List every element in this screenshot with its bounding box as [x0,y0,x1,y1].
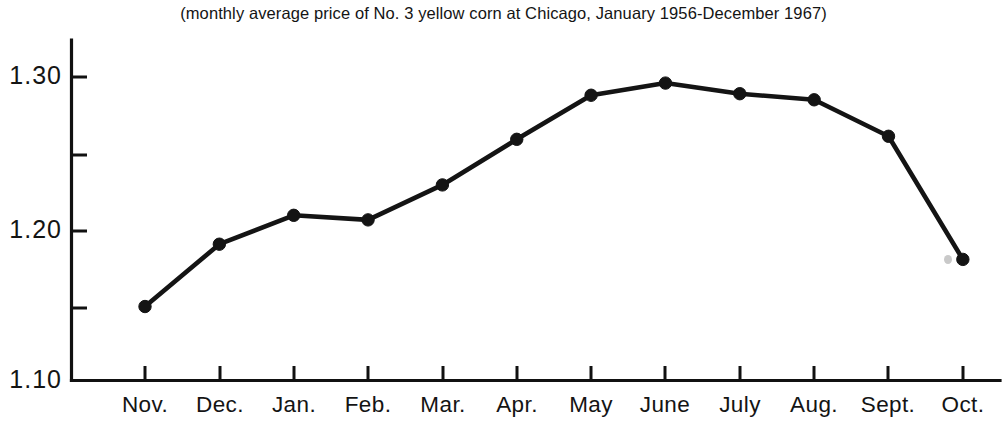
data-point [734,88,746,100]
x-axis-label-dec: Dec. [196,392,244,418]
x-axis-label-july: July [719,392,761,418]
chart-page: (monthly average price of No. 3 yellow c… [0,0,1007,429]
y-axis-ticks [72,77,88,308]
data-point [436,179,448,191]
chart-plot-area [0,0,1007,429]
data-point [808,94,820,106]
data-point [511,133,523,145]
data-point [585,89,597,101]
scan-artifact-speck [944,255,952,264]
x-axis-ticks [145,366,963,381]
x-axis-label-feb: Feb. [345,392,392,418]
x-axis-label-apr: Apr. [496,392,538,418]
x-axis-label-aug: Aug. [790,392,838,418]
y-axis-label-110: 1.10 [9,367,62,392]
x-axis-label-may: May [569,392,613,418]
x-axis-labels: Nov. Dec. Jan. Feb. Mar. Apr. May June J… [0,392,1007,429]
x-axis-label-sept: Sept. [861,392,916,418]
x-axis-label-oct: Oct. [942,392,985,418]
data-point [957,253,969,265]
x-axis-label-jan: Jan. [272,392,316,418]
data-point [362,214,374,226]
x-axis-label-nov: Nov. [122,392,168,418]
data-point [213,238,225,250]
data-point [882,130,894,142]
data-point [288,209,300,221]
y-axis-labels: 1.30 1.20 1.10 [0,0,62,429]
data-point [659,77,671,89]
data-series-line [145,83,963,306]
x-axis-label-june: June [640,392,690,418]
y-axis-label-130: 1.30 [9,63,62,88]
x-axis-label-mar: Mar. [420,392,465,418]
y-axis-label-120: 1.20 [9,217,62,242]
data-point [139,300,151,312]
